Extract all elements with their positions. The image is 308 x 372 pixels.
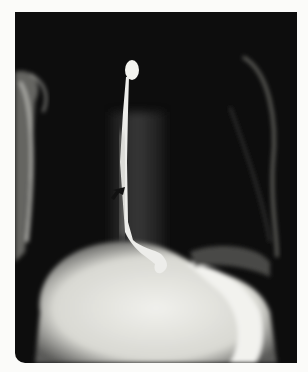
left-ribcage — [15, 71, 46, 262]
xray-image — [15, 12, 297, 363]
xray-film — [15, 12, 297, 363]
right-ribcage — [230, 57, 277, 257]
